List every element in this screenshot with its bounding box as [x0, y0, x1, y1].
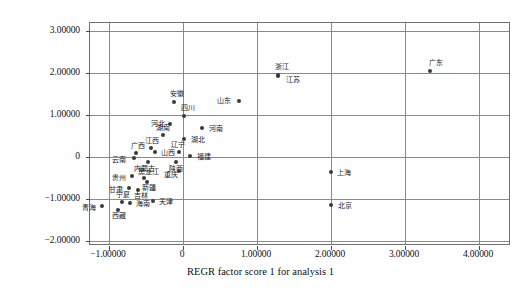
y-tick-mark	[86, 157, 90, 158]
data-point	[161, 133, 165, 137]
gridline-horizontal	[90, 31, 509, 32]
data-point-label: 上海	[337, 170, 351, 177]
y-tick-label: 3.00000	[0, 25, 80, 35]
plot-area: 广东浙江江苏山东安徽四川河北河南湖南湖北江西山西辽宁福建广西云南内蒙古陕西重庆贵…	[89, 22, 510, 245]
y-tick-mark	[86, 31, 90, 32]
data-point-label: 重庆	[164, 172, 178, 179]
data-point-label: 山西	[161, 150, 175, 157]
data-point-label: 青海	[82, 205, 96, 212]
data-point-label: 河南	[209, 126, 223, 133]
data-point	[149, 146, 153, 150]
y-tick-label: −2.00000	[0, 235, 80, 245]
data-point	[132, 156, 136, 160]
data-point-label: 四川	[181, 105, 195, 112]
data-point	[276, 74, 280, 78]
data-point-label: 江西	[145, 138, 159, 145]
data-point-label: 湖南	[156, 125, 170, 132]
y-tick-label: 0	[0, 151, 80, 161]
data-point	[172, 100, 176, 104]
y-tick-mark	[86, 199, 90, 200]
gridline-vertical	[257, 23, 258, 244]
data-point	[100, 204, 104, 208]
data-point	[174, 160, 178, 164]
gridline-vertical	[183, 23, 184, 244]
y-tick-label: 2.00000	[0, 67, 80, 77]
data-point-label: 天津	[159, 199, 173, 206]
data-point-label: 湖北	[191, 137, 205, 144]
y-tick-mark	[86, 115, 90, 116]
x-tick-label: −1.00000	[90, 249, 125, 259]
data-point	[130, 174, 134, 178]
data-point	[128, 201, 132, 205]
data-point-label: 黑龙江	[138, 169, 159, 176]
data-point-label: 云南	[112, 157, 126, 164]
data-point	[127, 186, 131, 190]
data-point	[134, 151, 138, 155]
gridline-horizontal	[90, 73, 509, 74]
data-point-label: 广西	[131, 143, 145, 150]
data-point	[153, 150, 157, 154]
data-point	[182, 114, 186, 118]
data-point-label: 北京	[338, 203, 352, 210]
data-point-label: 广东	[429, 60, 443, 67]
y-tick-label: 1.00000	[0, 109, 80, 119]
data-point	[146, 160, 150, 164]
y-tick-label: −1.00000	[0, 193, 80, 203]
data-point	[329, 203, 333, 207]
data-point-label: 浙江	[275, 64, 289, 71]
data-point	[151, 199, 155, 203]
scatter-plot-figure: REGR factor score 2 for analysis 1 广东浙江江…	[0, 0, 521, 290]
gridline-horizontal	[90, 115, 509, 116]
gridline-horizontal	[90, 241, 509, 242]
x-axis-title: REGR factor score 1 for analysis 1	[0, 266, 521, 277]
x-tick-label: 3.00000	[389, 249, 419, 259]
data-point-label: 安徽	[170, 91, 184, 98]
data-point-label: 福建	[197, 154, 211, 161]
data-point-label: 江苏	[286, 77, 300, 84]
gridline-vertical	[405, 23, 406, 244]
data-point-label: 宁夏	[116, 192, 130, 199]
data-point	[237, 99, 241, 103]
gridline-vertical	[109, 23, 110, 244]
y-tick-mark	[86, 241, 90, 242]
y-tick-mark	[86, 73, 90, 74]
gridline-vertical	[479, 23, 480, 244]
data-point	[177, 150, 181, 154]
data-point-label: 贵州	[112, 175, 126, 182]
data-point-label: 山东	[217, 98, 231, 105]
data-point	[200, 126, 204, 130]
gridline-vertical	[331, 23, 332, 244]
gridline-horizontal	[90, 157, 509, 158]
x-tick-label: 2.00000	[315, 249, 345, 259]
data-point	[329, 170, 333, 174]
data-point-label: 辽宁	[171, 142, 185, 149]
x-tick-label: 1.00000	[241, 249, 271, 259]
x-tick-label: 0	[180, 249, 185, 259]
data-point	[120, 200, 124, 204]
data-point-label: 西藏	[112, 213, 126, 220]
x-tick-label: 4.00000	[463, 249, 493, 259]
data-point-label: 海南	[136, 201, 150, 208]
